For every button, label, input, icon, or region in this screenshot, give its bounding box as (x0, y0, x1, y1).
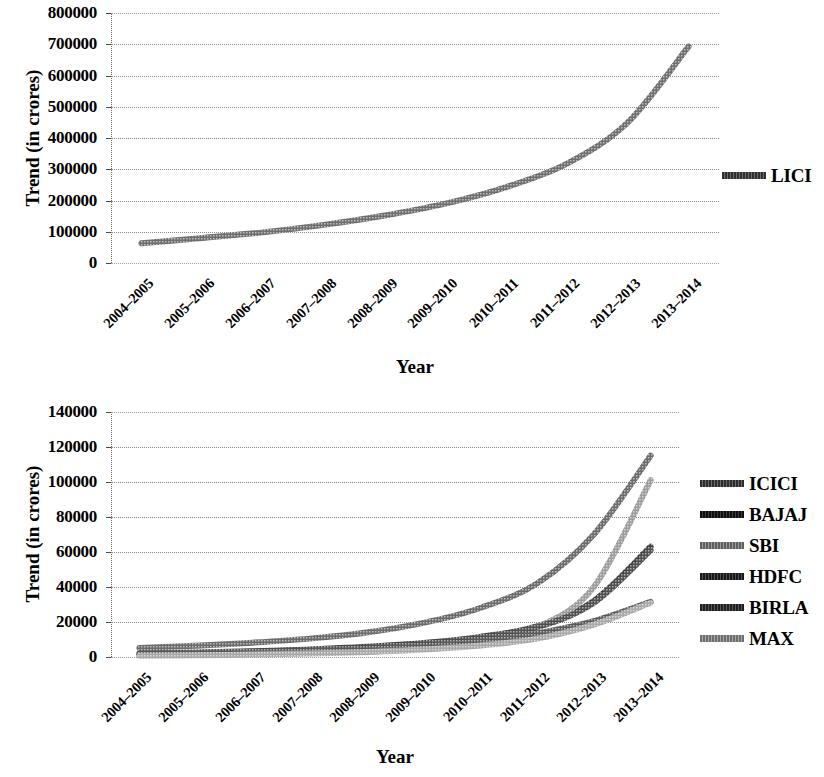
legend-item-lici[interactable]: LICI (722, 160, 811, 191)
lower-plot-area (111, 412, 679, 657)
legend-label: LICI (771, 166, 811, 185)
series-line-icici (139, 456, 650, 648)
upper-x-axis-title: Year (111, 356, 719, 378)
lower-y-tick-label: 140000 (0, 403, 97, 420)
series-line-lici (141, 46, 688, 243)
legend-label: MAX (749, 629, 794, 648)
upper-y-tick-label: 600000 (0, 67, 97, 84)
lower-x-axis-title: Year (111, 746, 679, 768)
series-line-hdfc (139, 550, 650, 654)
upper-series-layer (111, 13, 719, 263)
legend-swatch-max-icon (700, 635, 744, 642)
upper-plot-area (111, 13, 719, 263)
upper-y-tick-label: 400000 (0, 129, 97, 146)
lower-y-axis-title: Trend (in crores) (22, 434, 44, 634)
upper-y-tick-label: 100000 (0, 223, 97, 240)
upper-y-tick-mark (106, 263, 111, 264)
upper-y-tick-label: 300000 (0, 160, 97, 177)
lower-y-tick-label: 100000 (0, 473, 97, 490)
upper-gridline (111, 263, 719, 264)
lower-y-tick-label: 80000 (0, 508, 97, 525)
lower-y-tick-label: 40000 (0, 578, 97, 595)
series-line-bajaj (139, 547, 650, 654)
legend-item-bajaj[interactable]: BAJAJ (700, 499, 808, 530)
lower-y-tick-label: 20000 (0, 613, 97, 630)
lower-legend: ICICIBAJAJSBIHDFCBIRLAMAX (700, 468, 808, 654)
lower-y-tick-label: 120000 (0, 438, 97, 455)
legend-swatch-hdfc-icon (700, 573, 744, 580)
legend-swatch-lici-icon (722, 172, 766, 179)
lower-y-tick-label: 60000 (0, 543, 97, 560)
figure-page: Trend (in crores) 0100000200000300000400… (0, 0, 824, 777)
legend-item-icici[interactable]: ICICI (700, 468, 808, 499)
legend-swatch-icici-icon (700, 480, 744, 487)
legend-label: HDFC (749, 567, 802, 586)
legend-swatch-sbi-icon (700, 542, 744, 549)
lower-chart: Trend (in crores) 0200004000060000800001… (0, 390, 824, 777)
legend-item-sbi[interactable]: SBI (700, 530, 808, 561)
upper-y-tick-label: 700000 (0, 35, 97, 52)
lower-y-tick-label: 0 (0, 648, 97, 665)
legend-item-max[interactable]: MAX (700, 623, 808, 654)
upper-y-tick-label: 0 (0, 254, 97, 271)
legend-item-birla[interactable]: BIRLA (700, 592, 808, 623)
legend-label: BAJAJ (749, 505, 807, 524)
lower-y-tick-mark (106, 657, 111, 658)
lower-series-layer (111, 412, 679, 657)
legend-swatch-bajaj-icon (700, 511, 744, 518)
upper-y-tick-label: 500000 (0, 98, 97, 115)
upper-legend: LICI (722, 160, 811, 191)
legend-label: ICICI (749, 474, 798, 493)
legend-item-hdfc[interactable]: HDFC (700, 561, 808, 592)
legend-label: SBI (749, 536, 779, 555)
legend-swatch-birla-icon (700, 604, 744, 611)
upper-y-tick-label: 800000 (0, 4, 97, 21)
upper-chart: Trend (in crores) 0100000200000300000400… (0, 0, 824, 390)
legend-label: BIRLA (749, 598, 808, 617)
upper-y-tick-label: 200000 (0, 192, 97, 209)
